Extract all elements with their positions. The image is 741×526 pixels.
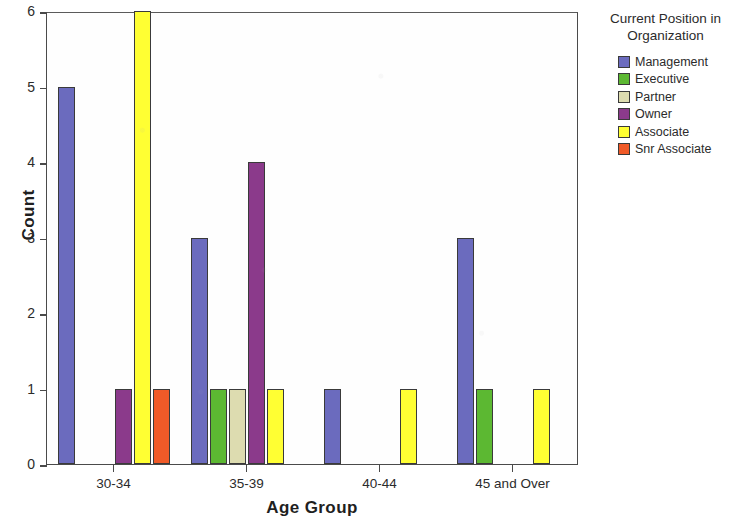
x-axis-tick-label: 45 and Over [443, 476, 583, 491]
legend-swatch-icon [618, 143, 630, 155]
legend-item-label: Owner [635, 107, 672, 121]
legend-item: Partner [618, 88, 738, 106]
legend-item: Associate [618, 123, 738, 141]
legend-swatch-icon [618, 91, 630, 103]
bar [134, 11, 151, 464]
y-axis-tick-label: 0 [7, 456, 35, 472]
y-axis-tick-label: 3 [7, 230, 35, 246]
y-axis-title: Count [19, 167, 39, 263]
y-axis-tick-label: 4 [7, 154, 35, 170]
bar [457, 238, 474, 465]
legend-item: Owner [618, 106, 738, 124]
x-axis-tick-mark [379, 464, 381, 472]
bar [115, 389, 132, 465]
y-axis-tick-label: 1 [7, 381, 35, 397]
y-axis-tick-label: 6 [7, 3, 35, 19]
x-axis-title: Age Group [46, 498, 578, 518]
x-axis-tick-label: 40-44 [310, 476, 450, 491]
x-axis-tick-mark [246, 464, 248, 472]
y-axis-tick-mark [40, 12, 47, 14]
legend-items: ManagementExecutivePartnerOwnerAssociate… [618, 53, 738, 158]
plot-area: 0123456 30-3435-3940-4445 and Over [46, 12, 578, 465]
y-axis-tick-mark [40, 314, 47, 316]
legend-swatch-icon [618, 56, 630, 68]
y-axis-tick-mark [40, 163, 47, 165]
legend-item-label: Associate [635, 125, 689, 139]
bar [400, 389, 417, 465]
bar [533, 389, 550, 465]
legend-title-line-1: Current Position in [596, 10, 735, 27]
legend-item: Management [618, 53, 738, 71]
y-axis-tick-mark [40, 239, 47, 241]
x-axis-tick-label: 30-34 [44, 476, 184, 491]
legend-title-line-2: Organization [596, 27, 735, 44]
bar [210, 389, 227, 465]
bar [248, 162, 265, 464]
y-axis-tick-label: 2 [7, 305, 35, 321]
y-axis-tick-mark [40, 88, 47, 90]
legend-swatch-icon [618, 108, 630, 120]
bar [58, 87, 75, 465]
x-axis-tick-mark [512, 464, 514, 472]
x-axis-tick-mark [113, 464, 115, 472]
legend-item-label: Partner [635, 90, 676, 104]
bar [229, 389, 246, 465]
legend-title: Current Position in Organization [596, 10, 735, 44]
y-axis-tick-mark [40, 465, 47, 467]
legend: Current Position in Organization Managem… [596, 10, 738, 158]
bar [267, 389, 284, 465]
bar [153, 389, 170, 465]
bar [476, 389, 493, 465]
legend-swatch-icon [618, 73, 630, 85]
legend-item-label: Executive [635, 72, 689, 86]
y-axis-tick-mark [40, 390, 47, 392]
legend-item: Snr Associate [618, 141, 738, 159]
x-axis-tick-label: 35-39 [177, 476, 317, 491]
bar [324, 389, 341, 465]
bar [191, 238, 208, 465]
y-axis-tick-label: 5 [7, 79, 35, 95]
legend-swatch-icon [618, 126, 630, 138]
legend-item: Executive [618, 71, 738, 89]
bar-chart-figure: Count 0123456 30-3435-3940-4445 and Over… [0, 0, 741, 526]
legend-item-label: Management [635, 55, 708, 69]
legend-item-label: Snr Associate [635, 142, 711, 156]
